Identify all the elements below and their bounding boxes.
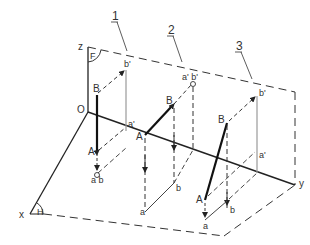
projection-diagram: z O x y F H 1 2 3 b' B a' A a b bbox=[0, 0, 310, 245]
case1-B: B bbox=[93, 83, 100, 94]
case3-segment: b' B a' A b a bbox=[196, 88, 266, 231]
x-axis-label: x bbox=[19, 209, 24, 220]
case2-A: A bbox=[136, 131, 143, 142]
svg-text:3: 3 bbox=[236, 39, 243, 53]
case2-a: a bbox=[140, 207, 145, 217]
horizontal-plane bbox=[30, 112, 295, 236]
frontal-plane bbox=[88, 47, 295, 185]
case1-segment: b' B a' A a b bbox=[88, 59, 135, 185]
case1-a-prime: a' bbox=[128, 119, 135, 129]
case3-a: a bbox=[203, 221, 208, 231]
case1-ab: a b bbox=[91, 175, 104, 185]
origin-label: O bbox=[77, 104, 85, 115]
case3-b-prime: b' bbox=[259, 88, 266, 98]
case2-ab-prime: a' b' bbox=[182, 72, 198, 82]
callout-2: 2 bbox=[167, 23, 182, 62]
case3-B: B bbox=[218, 114, 225, 125]
z-axis-label: z bbox=[78, 41, 83, 52]
case2-B: B bbox=[166, 95, 173, 106]
case3-b: b bbox=[230, 205, 235, 215]
horizontal-plane-label: H bbox=[37, 207, 44, 217]
frontal-plane-label: F bbox=[90, 51, 96, 61]
y-axis-label: y bbox=[299, 178, 304, 189]
case1-b-prime: b' bbox=[124, 59, 131, 69]
callout-3: 3 bbox=[235, 39, 252, 79]
case1-A: A bbox=[88, 146, 95, 157]
case3-a-prime: a' bbox=[259, 150, 266, 160]
svg-text:1: 1 bbox=[112, 9, 119, 23]
callout-1: 1 bbox=[111, 9, 127, 51]
case2-segment: a' b' B A b a bbox=[136, 72, 198, 217]
case3-A: A bbox=[196, 194, 203, 205]
y-axis bbox=[88, 112, 295, 185]
svg-text:2: 2 bbox=[168, 23, 175, 37]
case2-b: b bbox=[176, 183, 181, 193]
